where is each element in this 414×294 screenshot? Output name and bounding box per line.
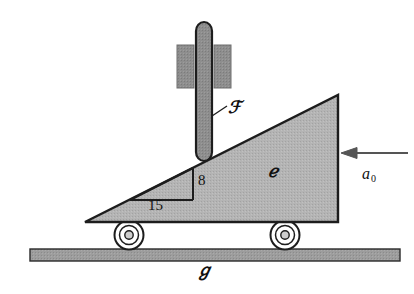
- rod-guide-left: [177, 45, 194, 88]
- ground-label: ℊ: [196, 262, 213, 279]
- slope-rise-label: 8: [198, 173, 206, 188]
- rod-label: ℱ: [228, 99, 241, 116]
- wheel-right: [271, 221, 300, 250]
- acceleration-label: a0: [362, 166, 375, 182]
- rod-guide-right: [214, 45, 231, 88]
- rod-label-leader-line: [212, 106, 227, 116]
- acceleration-arrow: [341, 148, 408, 159]
- ground-bar: [30, 249, 400, 261]
- diagram-canvas: [0, 0, 414, 294]
- acceleration-symbol: a: [362, 165, 370, 182]
- wheel-left: [115, 221, 144, 250]
- wedge-label: ℯ: [268, 163, 278, 180]
- vertical-rod: [196, 22, 212, 161]
- acceleration-subscript: 0: [371, 173, 376, 184]
- slope-run-label: 15: [148, 198, 163, 213]
- physics-diagram: ℱ ℯ ℊ a0 8 15: [0, 0, 414, 294]
